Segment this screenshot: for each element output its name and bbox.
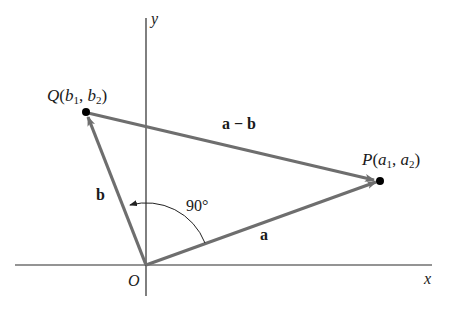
x-axis-label: x <box>424 270 431 288</box>
point-p-dot <box>376 177 384 185</box>
point-q-dot <box>82 108 90 116</box>
vector-b-label: b <box>96 186 105 204</box>
coord-2: a <box>401 150 410 169</box>
vector-a-label: a <box>260 226 268 244</box>
point-q-label: Q(b1, b2) <box>47 86 107 106</box>
vector-a-minus-b-label: a − b <box>222 115 256 133</box>
y-axis-label: y <box>151 10 158 28</box>
vector-a <box>146 182 376 265</box>
paren-close: ) <box>101 86 107 105</box>
coord-2: b <box>87 86 96 105</box>
origin-label: O <box>128 272 140 290</box>
paren-close: ) <box>415 150 421 169</box>
point-p-name: P <box>362 150 372 169</box>
point-q-name: Q <box>47 86 59 105</box>
coord-1: a <box>378 150 387 169</box>
angle-label: 90° <box>186 197 208 215</box>
separator: , <box>392 150 401 169</box>
point-p-label: P(a1, a2) <box>362 150 420 170</box>
